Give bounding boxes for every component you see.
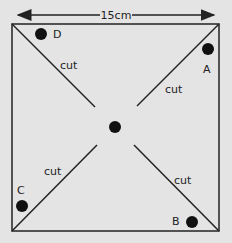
- pinwheel-diagram: 15cm cut cut cut cut D A C B: [0, 0, 232, 243]
- center-dot: [109, 121, 121, 133]
- cut-label-top-right: cut: [165, 83, 183, 96]
- corner-dot-d: [35, 28, 47, 40]
- corner-label-c: C: [17, 184, 25, 197]
- corner-label-d: D: [53, 28, 61, 41]
- corner-dot-a: [202, 43, 214, 55]
- cut-line-bottom-left: [12, 145, 97, 231]
- cut-label-top-left: cut: [60, 59, 78, 72]
- dimension-label: 15cm: [101, 9, 132, 22]
- cut-label-bottom-left: cut: [44, 165, 62, 178]
- corner-dot-c: [16, 200, 28, 212]
- corner-label-a: A: [203, 63, 211, 76]
- cut-label-bottom-right: cut: [174, 174, 192, 187]
- corner-label-b: B: [172, 215, 180, 228]
- dimension-arrow: 15cm: [18, 9, 214, 22]
- corner-dot-b: [186, 216, 198, 228]
